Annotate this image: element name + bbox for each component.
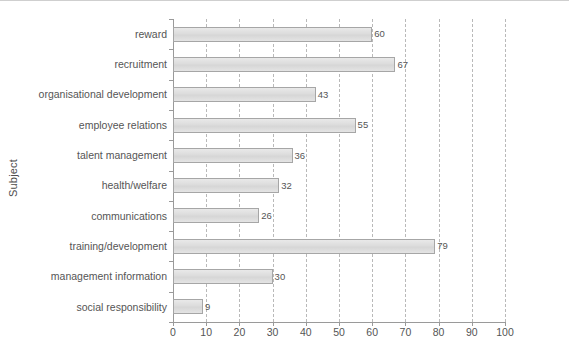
category-label: recruitment — [26, 49, 172, 79]
bar-row: 36 — [173, 140, 505, 170]
bar-row: 60 — [173, 19, 505, 49]
bar-value-label: 32 — [281, 181, 292, 191]
bar-value-label: 67 — [397, 60, 408, 70]
bar — [173, 27, 372, 42]
category-label-text: employee relations — [79, 120, 167, 131]
bar — [173, 299, 203, 314]
bar-row: 26 — [173, 201, 505, 231]
plot-area: 6067435536322679309 — [173, 19, 505, 322]
bar — [173, 118, 356, 133]
bar-chart: Subject rewardrecruitmentorganisational … — [0, 0, 569, 354]
category-label: training/development — [26, 231, 172, 261]
category-label-text: communications — [91, 211, 167, 222]
x-axis-tick-label: 10 — [200, 326, 212, 338]
bar-row: 9 — [173, 292, 505, 322]
x-axis-tick-label: 50 — [333, 326, 345, 338]
x-axis-tick-label: 60 — [366, 326, 378, 338]
bar-row: 67 — [173, 49, 505, 79]
bar-row: 43 — [173, 80, 505, 110]
x-axis-tick-label: 70 — [400, 326, 412, 338]
category-label-text: health/welfare — [102, 180, 167, 191]
bar-value-label: 30 — [275, 272, 286, 282]
x-axis-tick-label: 30 — [267, 326, 279, 338]
y-axis-title: Subject — [0, 1, 26, 354]
category-label-text: organisational development — [39, 89, 167, 100]
bar-value-label: 9 — [205, 302, 210, 312]
bar-value-label: 26 — [261, 211, 272, 221]
bar — [173, 178, 279, 193]
bar-value-label: 55 — [358, 120, 369, 130]
category-label: health/welfare — [26, 170, 172, 200]
bar-value-label: 43 — [318, 90, 329, 100]
x-axis-line — [173, 322, 505, 323]
category-label: communications — [26, 201, 172, 231]
bar — [173, 269, 273, 284]
x-axis-tick-label: 40 — [300, 326, 312, 338]
category-label: management information — [26, 261, 172, 291]
x-axis-tick-label: 100 — [496, 326, 514, 338]
gridline — [505, 19, 506, 322]
bar-row: 55 — [173, 110, 505, 140]
category-label-text: recruitment — [114, 59, 167, 70]
bar — [173, 87, 316, 102]
bars: 6067435536322679309 — [173, 19, 505, 322]
category-label: reward — [26, 19, 172, 49]
x-axis-tick-label: 90 — [466, 326, 478, 338]
bar-value-label: 60 — [374, 29, 385, 39]
bar-row: 79 — [173, 231, 505, 261]
category-label: employee relations — [26, 110, 172, 140]
category-label-text: reward — [135, 29, 167, 40]
bar — [173, 239, 435, 254]
category-label: organisational development — [26, 80, 172, 110]
bar-value-label: 79 — [437, 241, 448, 251]
category-label-text: social responsibility — [77, 302, 167, 313]
category-label-text: talent management — [77, 150, 167, 161]
x-axis-tick-label: 0 — [170, 326, 176, 338]
bar-row: 32 — [173, 171, 505, 201]
x-axis-tick-labels: 0102030405060708090100 — [173, 326, 505, 342]
bar — [173, 57, 395, 72]
category-label-text: training/development — [70, 241, 167, 252]
bar — [173, 208, 259, 223]
x-axis-tick-label: 80 — [433, 326, 445, 338]
bar-value-label: 36 — [295, 151, 306, 161]
x-axis-tick-label: 20 — [234, 326, 246, 338]
bar — [173, 148, 293, 163]
category-label: talent management — [26, 140, 172, 170]
y-axis-category-labels: rewardrecruitmentorganisational developm… — [26, 19, 172, 322]
bar-row: 30 — [173, 261, 505, 291]
category-label: social responsibility — [26, 292, 172, 322]
category-label-text: management information — [51, 271, 167, 282]
